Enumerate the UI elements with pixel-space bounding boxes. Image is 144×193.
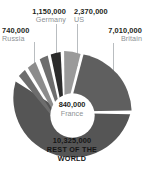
slice-label-rest-of-world: 10,325,000 REST OF THE WORLD bbox=[26, 137, 118, 164]
figure-caption-cropped bbox=[3, 186, 141, 193]
callout-label-russia: 740,000 Russia bbox=[2, 27, 60, 43]
slice-name-rest-of-world-line1: REST OF THE bbox=[26, 146, 118, 154]
callout-name-germany: Germany bbox=[6, 16, 66, 24]
callout-name-russia: Russia bbox=[2, 35, 60, 43]
center-name-france: France bbox=[44, 110, 100, 118]
center-label-france: 840,000 France bbox=[44, 101, 100, 118]
slice-value-rest-of-world: 10,325,000 bbox=[26, 137, 118, 145]
callout-name-us: US bbox=[74, 16, 136, 24]
slice-name-rest-of-world-line2: WORLD bbox=[26, 155, 118, 163]
callout-label-germany: 1,150,000 Germany bbox=[6, 8, 66, 24]
center-value-france: 840,000 bbox=[44, 101, 100, 109]
callout-label-us: 2,370,000 US bbox=[74, 8, 136, 24]
chart-figure: 1,150,000 Germany 2,370,000 US 740,000 R… bbox=[0, 0, 144, 193]
callout-name-britain: Britain bbox=[82, 35, 142, 43]
callout-label-britain: 7,010,000 Britain bbox=[82, 27, 142, 43]
